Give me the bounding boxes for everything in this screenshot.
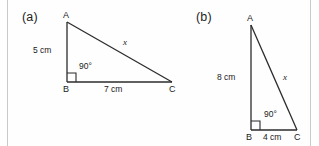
figure-b-side-label-BC: 4 cm [263,132,281,142]
figure-b-side-label-AB: 8 cm [217,72,235,82]
figure-b-vertex-label-A: A [247,13,253,23]
figure-b-vertex-label-B: B [246,132,252,142]
figure-b-side-label-AC: x [283,72,287,82]
figure-b-right-angle-marker [251,121,260,130]
figure-b-angle-label-B: 90° [264,109,277,119]
diagram-page: (a) A B C 5 cm 7 cm x 90° (b) A B C 8 cm… [0,0,319,146]
figure-b-triangle [0,0,319,146]
figure-b-vertex-label-C: C [294,132,301,142]
